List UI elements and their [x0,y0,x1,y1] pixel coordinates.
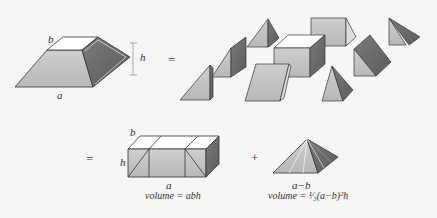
prism-block-shape [128,136,219,177]
exploded-pieces [180,18,420,101]
frustum-shape [15,37,137,87]
pyramid-volume-caption: volume = ¹⁄₃(a−b)²h [268,191,348,201]
frustum-label-b: b [48,34,54,45]
frustum-decomposition-diagram: b h a = = + b h a volume = abh a−b volum… [0,0,437,218]
block-label-h: h [120,157,126,168]
equals-sign-1: = [168,53,175,66]
diagram-graphics [0,0,437,218]
pyramid-shape [273,139,338,173]
block-label-b: b [130,127,136,138]
block-volume-caption: volume = abh [145,191,201,201]
plus-sign: + [251,151,258,164]
frustum-label-a: a [57,90,63,101]
frustum-label-h: h [140,52,146,63]
equals-sign-2: = [86,152,93,165]
